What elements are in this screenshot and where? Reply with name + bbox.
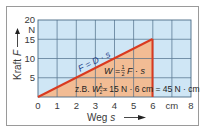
svg-text:W =: W =	[104, 66, 120, 76]
x-axis-title: Weg s	[87, 112, 146, 123]
svg-text:3: 3	[93, 100, 98, 111]
y-unit-label: N	[28, 24, 35, 35]
svg-text:z.B. W =: z.B. W =	[75, 84, 107, 94]
svg-text:4: 4	[112, 100, 117, 111]
x-tick-labels: 0 1 2 3 4 5 6 cm 8	[35, 100, 193, 111]
svg-text:6: 6	[150, 100, 155, 111]
svg-text:F · s: F · s	[127, 66, 146, 76]
y-axis-title: Kraft F	[12, 28, 23, 80]
svg-text:2: 2	[74, 100, 79, 111]
svg-text:15: 15	[24, 34, 35, 45]
y-tick-labels: 5 10 15 20 N	[24, 14, 35, 83]
svg-text:Weg s: Weg s	[87, 112, 115, 123]
y-axis-arrow-icon	[15, 28, 20, 34]
svg-text:5: 5	[30, 72, 35, 83]
svg-text:1: 1	[100, 82, 103, 88]
svg-text:2: 2	[122, 71, 125, 77]
svg-text:5: 5	[131, 100, 136, 111]
example-formula-label: z.B. W = 1 2 · 15 N · 6 cm = 45 N · cm	[75, 82, 200, 95]
svg-text:Kraft F: Kraft F	[12, 49, 23, 80]
svg-text:0: 0	[35, 100, 40, 111]
svg-text:1: 1	[122, 64, 125, 70]
chart-svg: 0 1 2 3 4 5 6 cm 8 5 10 15 20 N Kraft F …	[0, 0, 204, 133]
svg-text:· 15 N · 6 cm = 45 N · cm: · 15 N · 6 cm = 45 N · cm	[104, 84, 200, 94]
svg-text:cm: cm	[166, 100, 179, 111]
svg-text:8: 8	[188, 100, 193, 111]
svg-text:1: 1	[54, 100, 59, 111]
x-axis-arrow-icon	[138, 115, 146, 120]
svg-text:2: 2	[100, 89, 103, 95]
svg-text:10: 10	[24, 53, 35, 64]
